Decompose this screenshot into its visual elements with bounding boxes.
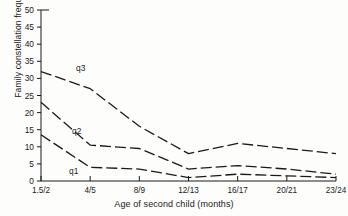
x-tick-label: 1.5/2 (32, 186, 51, 195)
y-tick-label: 15 (25, 125, 35, 135)
y-tick-label: 5 (29, 159, 34, 169)
plot-area: 05101520253035404550 1.5/24/58/912/1316/… (0, 0, 348, 216)
series-label-q2: q2 (72, 126, 82, 136)
x-tick-label: 4/5 (84, 186, 96, 195)
x-tick-marks (41, 176, 336, 181)
x-tick-label: 20/21 (277, 186, 298, 195)
x-axis: 1.5/24/58/912/1316/1720/2123/24 (32, 10, 347, 195)
y-tick-label: 10 (25, 142, 35, 152)
x-tick-label: 23/24 (326, 186, 347, 195)
y-tick-label: 25 (25, 91, 35, 101)
series-label-group: q3q2q1 (69, 63, 86, 176)
y-tick-label: 40 (25, 39, 35, 49)
y-tick-label: 0 (29, 176, 34, 186)
data-series-group (41, 72, 336, 178)
y-tick-label: 30 (25, 73, 35, 83)
series-label-q1: q1 (69, 166, 79, 176)
series-line-q1 (41, 135, 336, 178)
x-axis-title: Age of second child (months) (0, 199, 348, 209)
series-label-q3: q3 (76, 63, 86, 73)
y-tick-label: 50 (25, 5, 35, 15)
y-tick-label: 35 (25, 56, 35, 66)
y-tick-labels: 05101520253035404550 (25, 5, 35, 186)
y-tick-label: 45 (25, 22, 35, 32)
chart-figure: Family constellation frequencies 0510152… (0, 0, 348, 216)
x-tick-label: 16/17 (227, 186, 248, 195)
x-tick-label: 8/9 (134, 186, 146, 195)
x-tick-label: 12/13 (178, 186, 199, 195)
series-line-q3 (41, 72, 336, 154)
y-axis: 05101520253035404550 (25, 5, 41, 186)
y-tick-label: 20 (25, 108, 35, 118)
x-tick-labels: 1.5/24/58/912/1316/1720/2123/24 (32, 186, 347, 195)
y-tick-marks (37, 10, 41, 181)
